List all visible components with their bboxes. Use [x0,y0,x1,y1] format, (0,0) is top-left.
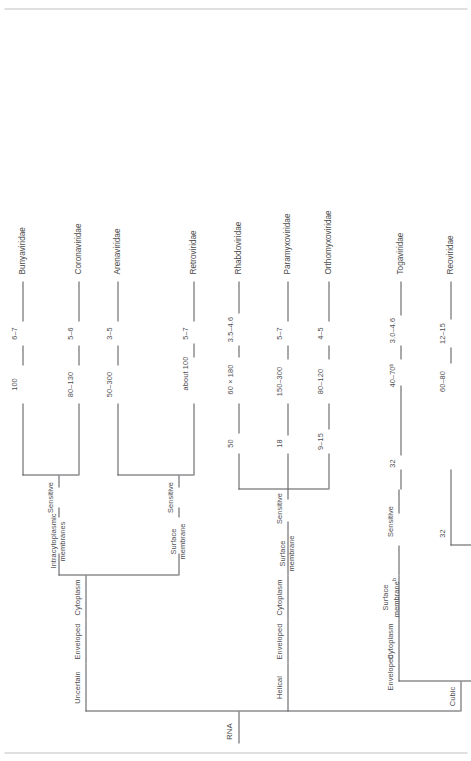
edge-ether-sens-helical [287,521,288,531]
row-edge [238,403,239,433]
edge-assembly-helical [287,575,288,619]
row-edge [328,281,329,321]
edge-ether-sens-surface [178,507,179,517]
edge-cubic-enveloped [398,663,399,681]
cell-virion-diameter: 80–120 [316,368,325,393]
edge-uncertain-enveloped [85,619,86,663]
row-edge [287,281,288,321]
cell-helix-diameter: 9–15 [316,433,325,450]
row-edge [287,345,288,359]
row-edge [400,469,401,489]
edge-root [238,711,239,743]
cell-virion-diameter: 40–70ᵇ [388,363,397,387]
edge-fan-intracyto [22,474,78,475]
row-edge [287,453,288,489]
edge-helical-enveloped [287,619,288,663]
row-edge [238,345,239,357]
row-edge [400,385,401,455]
row-edge [400,281,401,315]
edge-assembly-cubic-env [398,619,399,663]
cell-virion-diameter: 150–300 [275,366,284,395]
cell-nucleic-acid-mw: 3.5–4.6 [226,316,235,341]
cell-nucleic-acid-mw: 12–15 [438,322,447,343]
row-edge [328,453,329,489]
edge-uncertain [85,663,86,711]
row-edge [328,403,329,429]
edge-assembly-uncertain [85,575,86,619]
row-edge [238,453,239,489]
branch-label-envelopment-cubic: Surfacemembraneb [381,570,401,624]
branch-label-assembly-cubic-env: Cytoplasm [387,623,396,659]
cell-nucleic-acid-mw: 5–6 [66,327,75,340]
edge-helical [287,663,288,711]
cell-virion-diameter: 60–80 [438,370,447,391]
branch-label-assembly-helical: Cytoplasm [276,579,285,615]
row-edge [450,281,451,319]
cell-virion-diameter: 50–300 [105,371,114,396]
branch-label-sensitive-helical: Sensitive [276,493,285,524]
cell-nucleic-acid-mw: 5–7 [181,327,190,340]
cell-virion-diameter: 100 [10,378,19,391]
branch-label-envelopment-intracyto: Intracytoplasmic membranes [49,514,66,568]
branch-label-cubic: Cubic [449,686,458,705]
cell-helix-diameter: 50 [226,439,235,447]
row-edge [193,403,194,475]
cell-nucleic-acid-mw: 3–5 [105,327,114,340]
cell-nucleic-acid-mw: 6–7 [10,327,19,340]
family-label: Arenaviridae [113,228,122,274]
edge-cubic [460,681,461,711]
row-edge [22,345,23,365]
edge-ether-sens-surface-2 [178,475,179,487]
row-edge [78,281,79,321]
family-label: Coronaviridae [74,223,83,274]
edge-uncertain-envelopment-split [58,574,178,575]
branch-label-uncertain-enveloped: Enveloped [74,623,83,659]
branch-label-assembly-uncertain: Cytoplasm [74,579,83,615]
edge-ether-sens-cubic [398,545,399,575]
row-edge [193,343,194,357]
edge-fan-resistant [450,544,471,545]
page-rule-left [4,752,467,753]
row-edge [287,403,288,435]
branch-label-envelopment-surface-unc: Surface membrane [169,514,186,568]
branch-label-envelopment-helical: Surface membrane [278,526,295,580]
root-label: RNA [224,723,233,740]
row-edge [22,281,23,321]
cell-virion-diameter: 60 × 180 [226,364,235,394]
branch-label-helical: Helical [276,676,285,699]
branch-label-uncertain: Uncertain [74,671,83,704]
cell-virion-diameter: about 100 [181,356,190,390]
edge-fan-helical [238,488,328,489]
family-label: Retroviridae [189,230,198,274]
cell-helix-diameter: 18 [275,439,284,447]
branch-label-sensitive-surface: Sensitive [167,482,176,513]
cell-capsomeres: 32 [388,459,397,467]
dendrogram-figure: RNA Cubic Helical Uncertain Naked Envelo… [0,0,471,761]
row-edge [238,281,239,313]
row-edge [78,403,79,475]
row-edge [400,345,401,359]
edge-ether-sens-intra-2 [58,475,59,487]
family-label: Bunyaviridae [18,227,27,274]
edge-ether-sens-cubic-2 [398,489,399,513]
cell-virion-diameter: 80–130 [66,371,75,396]
edge-ether-sens-helical-2 [287,489,288,499]
row-edge [117,403,118,475]
family-label: Paramyxoviridae [283,213,292,274]
family-label: Orthomyxoviridae [324,210,333,274]
row-edge [328,345,329,359]
cell-nucleic-acid-mw: 4–5 [316,327,325,340]
row-edge [117,281,118,321]
edge-symmetry-spine [85,710,460,711]
family-label: Togaviridae [396,232,405,274]
row-edge [450,469,451,545]
edge-fan-surface-unc [117,474,193,475]
edge-cubic-split [398,680,471,681]
cell-nucleic-acid-mw: 3.0–4.6 [388,317,397,342]
row-edge [78,345,79,365]
row-edge [22,403,23,475]
branch-label-sensitive-intra: Sensitive [47,482,56,513]
cell-nucleic-acid-mw: 5–7 [275,327,284,340]
page-rule-right [4,8,467,9]
branch-label-cubic-enveloped: Enveloped [387,654,396,690]
